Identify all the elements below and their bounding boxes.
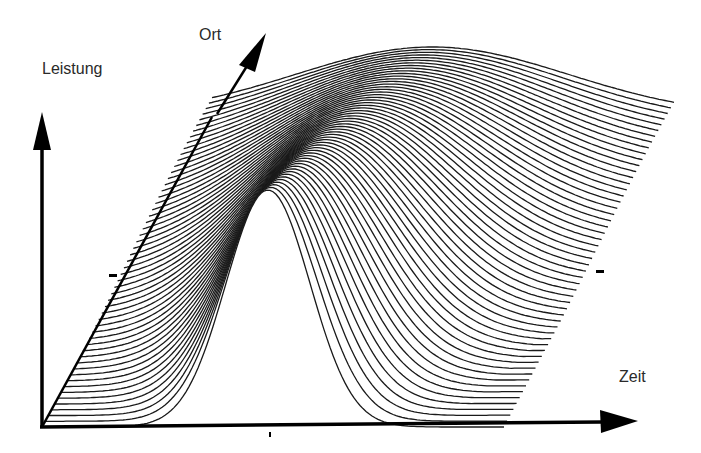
zeit-arrow-icon [600,410,638,433]
zeit-axis-label: Zeit [619,368,646,386]
surface-lines [42,47,674,430]
ort-axis-label: Ort [199,26,221,44]
ort-arrow-icon [239,33,266,72]
waterfall-plot [0,0,701,453]
leistung-axis-label: Leistung [42,60,103,78]
tick-mark-bottom [269,432,271,437]
tick-mark-right [596,270,604,273]
tick-mark-left [109,274,117,277]
leistung-arrow-icon [33,112,51,150]
